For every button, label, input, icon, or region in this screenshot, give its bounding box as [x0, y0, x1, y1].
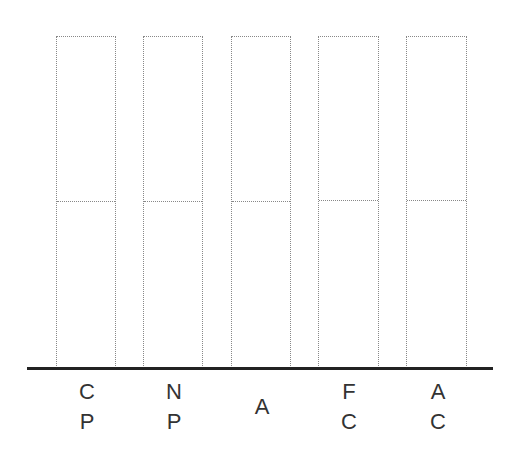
column-divider	[407, 200, 466, 201]
column-label-cp: C P	[57, 377, 117, 437]
label-line: C	[319, 407, 379, 437]
column-label-ac: A C	[408, 377, 468, 437]
column-label-fc: F C	[319, 377, 379, 437]
label-line: P	[57, 407, 117, 437]
baseline	[27, 367, 493, 370]
column-divider	[319, 200, 378, 201]
label-line: F	[319, 377, 379, 407]
label-line: C	[408, 407, 468, 437]
column-box-np	[143, 36, 203, 368]
label-line: P	[144, 407, 204, 437]
column-box-ac	[406, 36, 467, 368]
column-box-cp	[56, 36, 116, 368]
label-line: C	[57, 377, 117, 407]
column-label-np: N P	[144, 377, 204, 437]
column-box-a	[231, 36, 291, 368]
label-line: A	[408, 377, 468, 407]
column-box-fc	[318, 36, 379, 368]
column-divider	[57, 201, 115, 202]
label-line: A	[232, 392, 292, 422]
label-line: N	[144, 377, 204, 407]
column-divider	[232, 201, 290, 202]
column-divider	[144, 201, 202, 202]
column-label-a: A	[232, 392, 292, 422]
